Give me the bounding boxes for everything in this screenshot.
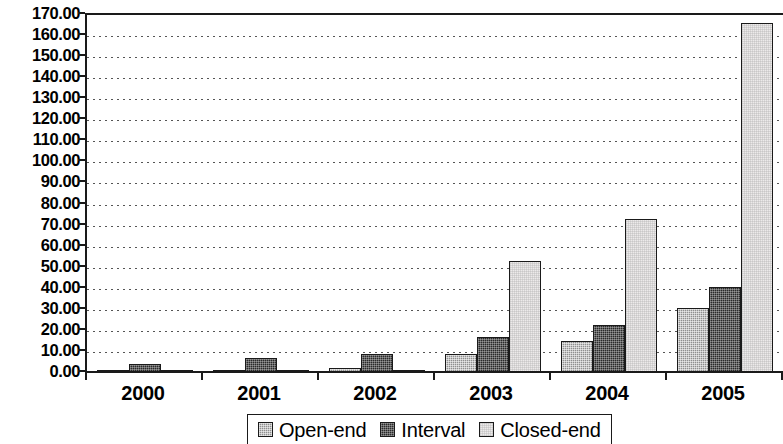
- x-axis-tick-mark: [317, 371, 319, 380]
- bar-closed-end-2003: [509, 261, 541, 373]
- y-axis-tick-label: 50.00: [2, 258, 80, 274]
- y-axis-tick-mark: [78, 349, 85, 351]
- y-axis-tick-mark: [78, 33, 85, 35]
- y-axis-tick-label: 130.00: [2, 89, 80, 105]
- y-axis-tick-mark: [78, 159, 85, 161]
- y-axis-tick-mark: [78, 202, 85, 204]
- x-axis-tick-mark: [549, 371, 551, 380]
- y-axis-tick-label: 10.00: [2, 342, 80, 358]
- bar-closed-end-2004: [625, 219, 657, 373]
- y-axis-tick-mark: [78, 12, 85, 14]
- gridline: [87, 205, 783, 206]
- y-axis-tick-mark: [78, 223, 85, 225]
- legend-entry-closed-end: Closed-end: [479, 419, 600, 441]
- x-axis-category-label: 2001: [204, 382, 314, 404]
- y-axis: 170.00160.00150.00140.00130.00120.00110.…: [0, 0, 80, 444]
- y-axis-tick-label: 90.00: [2, 173, 80, 189]
- y-axis-tick-label: 120.00: [2, 110, 80, 126]
- gridline: [87, 141, 783, 142]
- plot-inner: [87, 15, 783, 373]
- y-axis-tick-label: 30.00: [2, 300, 80, 316]
- y-axis-tick-label: 0.00: [2, 363, 80, 379]
- bar-open-end-2004: [561, 341, 593, 373]
- y-axis-tick-mark: [78, 244, 85, 246]
- bar-interval-2004: [593, 325, 625, 373]
- legend-swatch-closed-end: [479, 422, 494, 437]
- y-axis-tick-mark: [78, 96, 85, 98]
- bar-interval-2003: [477, 337, 509, 373]
- x-axis-tick-mark: [433, 371, 435, 380]
- legend-entry-open-end: Open-end: [258, 419, 366, 441]
- y-axis-tick-mark: [78, 370, 85, 372]
- bar-open-end-2005: [677, 308, 709, 373]
- legend-label: Open-end: [279, 419, 366, 441]
- y-axis-tick-label: 160.00: [2, 26, 80, 42]
- y-axis-tick-label: 140.00: [2, 68, 80, 84]
- y-axis-tick-label: 150.00: [2, 47, 80, 63]
- legend: Open-endIntervalClosed-end: [247, 414, 612, 444]
- bar-interval-2005: [709, 287, 741, 373]
- y-axis-tick-label: 20.00: [2, 321, 80, 337]
- y-axis-tick-mark: [78, 328, 85, 330]
- y-axis-tick-label: 60.00: [2, 237, 80, 253]
- y-axis-tick-label: 110.00: [2, 131, 80, 147]
- y-axis-tick-label: 100.00: [2, 152, 80, 168]
- y-axis-tick-label: 80.00: [2, 195, 80, 211]
- y-axis-tick-mark: [78, 117, 85, 119]
- plot-area: [85, 13, 783, 373]
- gridline: [87, 120, 783, 121]
- legend-entry-interval: Interval: [380, 419, 465, 441]
- y-axis-tick-mark: [78, 180, 85, 182]
- x-axis-tick-mark: [201, 371, 203, 380]
- gridline: [87, 78, 783, 79]
- x-axis-category-label: 2005: [668, 382, 778, 404]
- y-axis-tick-mark: [78, 286, 85, 288]
- bar-closed-end-2005: [741, 23, 773, 373]
- legend-label: Closed-end: [500, 419, 600, 441]
- y-axis-tick-label: 170.00: [2, 5, 80, 21]
- gridline: [87, 162, 783, 163]
- y-axis-tick-mark: [78, 75, 85, 77]
- y-axis-tick-label: 70.00: [2, 216, 80, 232]
- legend-label: Interval: [401, 419, 465, 441]
- legend-swatch-open-end: [258, 422, 273, 437]
- gridline: [87, 183, 783, 184]
- gridline: [87, 36, 783, 37]
- gridline: [87, 226, 783, 227]
- gridline: [87, 268, 783, 269]
- x-axis-tick-mark: [665, 371, 667, 380]
- x-axis-category-label: 2004: [552, 382, 662, 404]
- x-axis-category-label: 2003: [436, 382, 546, 404]
- y-axis-tick-mark: [78, 138, 85, 140]
- y-axis-tick-mark: [78, 54, 85, 56]
- x-axis-category-label: 2002: [320, 382, 430, 404]
- gridline: [87, 289, 783, 290]
- y-axis-tick-mark: [78, 307, 85, 309]
- y-axis-tick-mark: [78, 265, 85, 267]
- gridline: [87, 247, 783, 248]
- bar-chart: 170.00160.00150.00140.00130.00120.00110.…: [0, 0, 783, 444]
- legend-swatch-interval: [380, 422, 395, 437]
- x-axis-category-label: 2000: [88, 382, 198, 404]
- gridline: [87, 99, 783, 100]
- gridline: [87, 57, 783, 58]
- y-axis-tick-label: 40.00: [2, 279, 80, 295]
- x-axis-tick-mark: [85, 371, 87, 380]
